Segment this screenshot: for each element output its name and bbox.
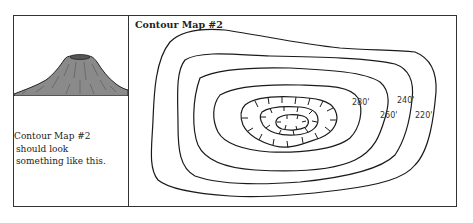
- caption-line-1: Contour Map #2: [14, 130, 124, 143]
- reference-caption: Contour Map #2 should look something lik…: [14, 130, 124, 168]
- contour-map: [129, 16, 457, 206]
- contour-label-260: 260': [380, 111, 397, 120]
- volcano-icon: [14, 46, 128, 96]
- contour-label-240: 240': [397, 96, 414, 105]
- caption-line-3: something like this.: [14, 155, 124, 168]
- contour-320: [260, 107, 318, 136]
- contour-label-220: 220': [415, 111, 432, 120]
- contour-260: [194, 68, 388, 171]
- caption-line-2: should look: [14, 143, 124, 156]
- contour-label-280: 280': [352, 98, 369, 107]
- reference-panel: Contour Map #2 should look something lik…: [14, 16, 128, 206]
- contour-300: [241, 97, 337, 148]
